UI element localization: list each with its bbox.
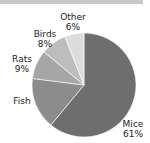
label-other-name: Other xyxy=(58,12,88,22)
label-rats-name: Rats xyxy=(10,54,34,64)
label-fish: Fish xyxy=(10,96,34,106)
label-other-pct: 6% xyxy=(58,22,88,32)
label-birds: Birds 8% xyxy=(30,29,60,49)
label-rats-pct: 9% xyxy=(10,64,34,74)
label-birds-name: Birds xyxy=(30,29,60,39)
label-rats: Rats 9% xyxy=(10,54,34,74)
label-mice: Mice 61% xyxy=(120,119,146,139)
label-mice-pct: 61% xyxy=(120,129,146,139)
label-fish-name: Fish xyxy=(10,96,34,106)
label-birds-pct: 8% xyxy=(30,39,60,49)
label-other: Other 6% xyxy=(58,12,88,32)
label-mice-name: Mice xyxy=(120,119,146,129)
